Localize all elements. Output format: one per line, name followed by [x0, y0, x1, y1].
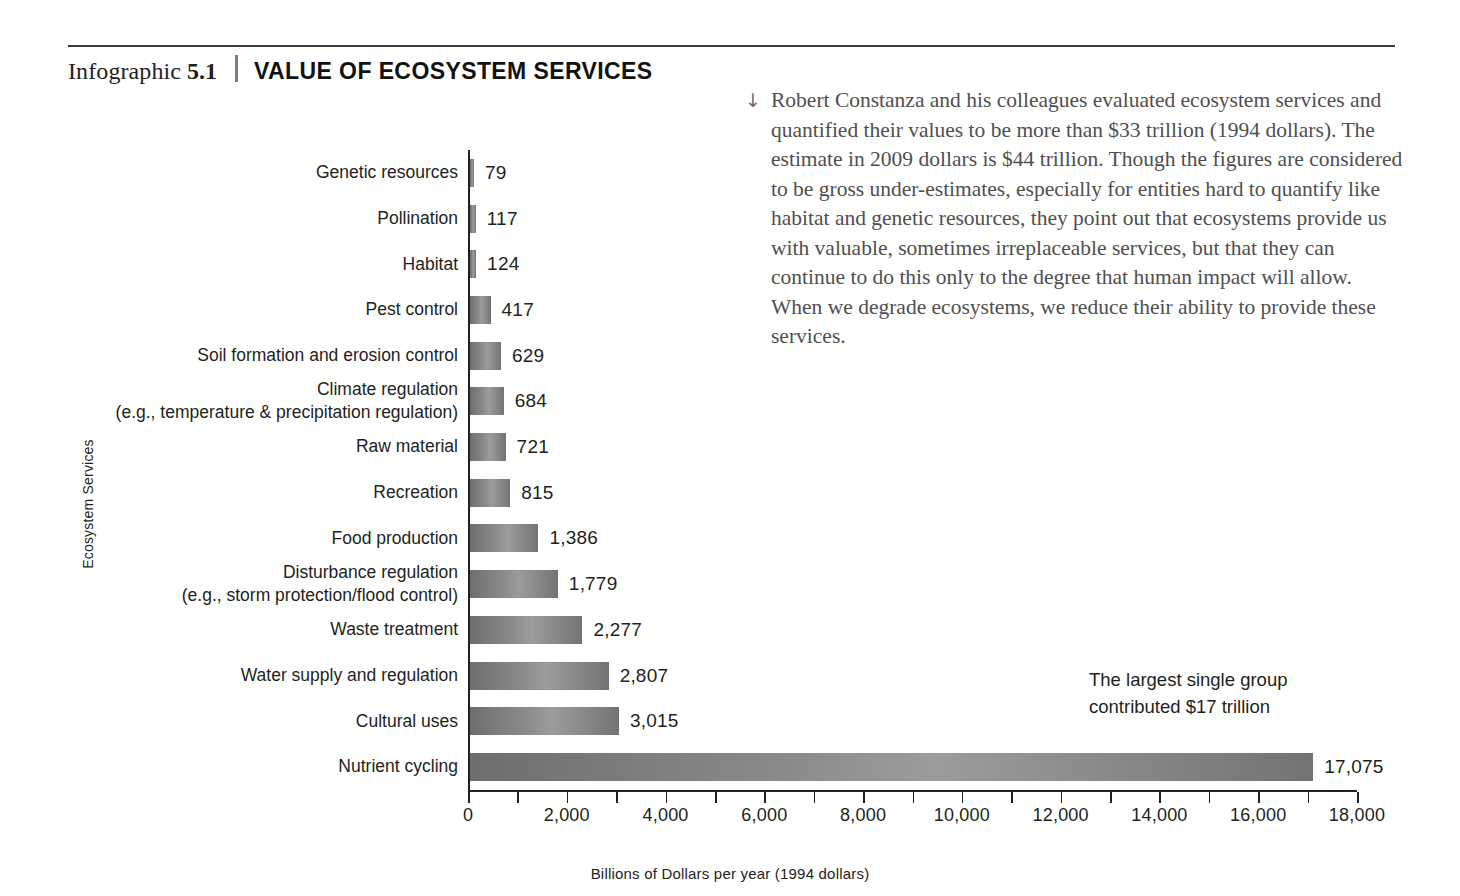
bar	[470, 662, 609, 690]
bar-value-label: 2,277	[593, 619, 642, 641]
x-axis-tick-label: 6,000	[741, 805, 787, 826]
category-label-text: Food production	[332, 527, 458, 550]
x-axis-tick	[616, 792, 618, 803]
y-axis-title: Ecosystem Services	[80, 404, 96, 604]
bar-row: 1,779	[470, 561, 1357, 607]
y-axis-category-label: Recreation	[110, 470, 458, 516]
category-label-text: Nutrient cycling	[338, 755, 458, 778]
y-axis-category-label: Soil formation and erosion control	[110, 333, 458, 379]
bar	[470, 250, 476, 278]
category-label-text: Recreation	[373, 481, 458, 504]
x-axis-tick	[1061, 792, 1063, 803]
bar-value-label: 417	[502, 299, 534, 321]
bar	[470, 707, 619, 735]
x-axis-tick-label: 4,000	[643, 805, 689, 826]
x-axis-tick	[1209, 792, 1211, 803]
bar	[470, 433, 506, 461]
bar-value-label: 117	[487, 208, 518, 230]
category-label-text: Disturbance regulation	[283, 561, 458, 584]
bar-row: 117	[470, 196, 1357, 242]
x-axis-tick-labels: 02,0004,0006,0008,00010,00012,00014,0001…	[468, 805, 1357, 831]
y-axis-category-label: Waste treatment	[110, 607, 458, 653]
category-sublabel-text: (e.g., storm protection/flood control)	[182, 584, 458, 607]
bar-value-label: 815	[521, 482, 553, 504]
y-axis-category-label: Nutrient cycling	[110, 744, 458, 790]
bar	[470, 524, 538, 552]
bar-value-label: 629	[512, 345, 544, 367]
bar-value-label: 1,779	[569, 573, 618, 595]
category-sublabel-text: (e.g., temperature & precipitation regul…	[116, 401, 458, 424]
bar-row: 1,386	[470, 516, 1357, 562]
bar-row: 417	[470, 287, 1357, 333]
bar-value-label: 1,386	[549, 527, 598, 549]
bar	[470, 753, 1313, 781]
bar-row: 815	[470, 470, 1357, 516]
x-axis-tick-label: 16,000	[1230, 805, 1286, 826]
y-axis-category-label: Cultural uses	[110, 698, 458, 744]
x-axis-tick	[468, 792, 470, 803]
bar	[470, 342, 501, 370]
bar-value-label: 79	[485, 162, 507, 184]
category-label-text: Climate regulation	[317, 378, 458, 401]
category-label-text: Raw material	[356, 435, 458, 458]
bar-row: 2,277	[470, 607, 1357, 653]
bar-value-label: 17,075	[1324, 756, 1383, 778]
x-axis-tick	[1258, 792, 1260, 803]
x-axis-ticks	[468, 792, 1357, 804]
bar-value-label: 684	[515, 390, 547, 412]
x-axis-tick	[1159, 792, 1161, 803]
category-label-text: Waste treatment	[330, 618, 458, 641]
annotation-line-1: The largest single group	[1089, 666, 1349, 693]
bar	[470, 296, 491, 324]
bar-value-label: 3,015	[630, 710, 679, 732]
bar-row: 79	[470, 150, 1357, 196]
y-axis-category-label: Disturbance regulation(e.g., storm prote…	[110, 561, 458, 607]
x-axis-tick	[863, 792, 865, 803]
y-axis-category-label: Water supply and regulation	[110, 653, 458, 699]
y-axis-category-label: Habitat	[110, 241, 458, 287]
x-axis-tick	[814, 792, 816, 803]
bar-row: 124	[470, 241, 1357, 287]
bar-row: 721	[470, 424, 1357, 470]
x-axis-tick-label: 18,000	[1329, 805, 1385, 826]
bar	[470, 479, 510, 507]
y-axis-category-label: Pest control	[110, 287, 458, 333]
category-label-text: Cultural uses	[356, 710, 458, 733]
y-axis-category-label: Raw material	[110, 424, 458, 470]
x-axis-tick-label: 8,000	[840, 805, 886, 826]
bar-chart: Ecosystem Services Genetic resourcesPoll…	[0, 0, 1460, 896]
x-axis-tick	[666, 792, 668, 803]
y-axis-tick-labels: Genetic resourcesPollinationHabitatPest …	[110, 150, 458, 790]
x-axis-tick	[715, 792, 717, 803]
x-axis-tick	[1110, 792, 1112, 803]
category-label-text: Genetic resources	[316, 161, 458, 184]
y-axis-category-label: Pollination	[110, 196, 458, 242]
x-axis-tick-label: 10,000	[934, 805, 990, 826]
bar	[470, 205, 476, 233]
x-axis-tick	[962, 792, 964, 803]
category-label-text: Habitat	[403, 253, 458, 276]
x-axis-title: Billions of Dollars per year (1994 dolla…	[0, 865, 1460, 882]
bar-value-label: 721	[517, 436, 549, 458]
y-axis-category-label: Genetic resources	[110, 150, 458, 196]
category-label-text: Pest control	[366, 298, 458, 321]
bar	[470, 159, 474, 187]
bar-value-label: 124	[487, 253, 519, 275]
x-axis-tick	[764, 792, 766, 803]
bar-row: 17,075	[470, 744, 1357, 790]
category-label-text: Pollination	[377, 207, 458, 230]
annotation-line-2: contributed $17 trillion	[1089, 693, 1349, 720]
x-axis-tick-label: 0	[463, 805, 473, 826]
category-label-text: Water supply and regulation	[241, 664, 458, 687]
x-axis-tick	[567, 792, 569, 803]
x-axis-tick	[1308, 792, 1310, 803]
category-label-text: Soil formation and erosion control	[197, 344, 458, 367]
bar-value-label: 2,807	[620, 665, 669, 687]
x-axis-tick	[1357, 792, 1359, 803]
x-axis-tick	[1011, 792, 1013, 803]
y-axis-category-label: Food production	[110, 516, 458, 562]
bar	[470, 616, 582, 644]
x-axis-tick-label: 2,000	[544, 805, 590, 826]
x-axis-tick	[913, 792, 915, 803]
y-axis-category-label: Climate regulation(e.g., temperature & p…	[110, 378, 458, 424]
